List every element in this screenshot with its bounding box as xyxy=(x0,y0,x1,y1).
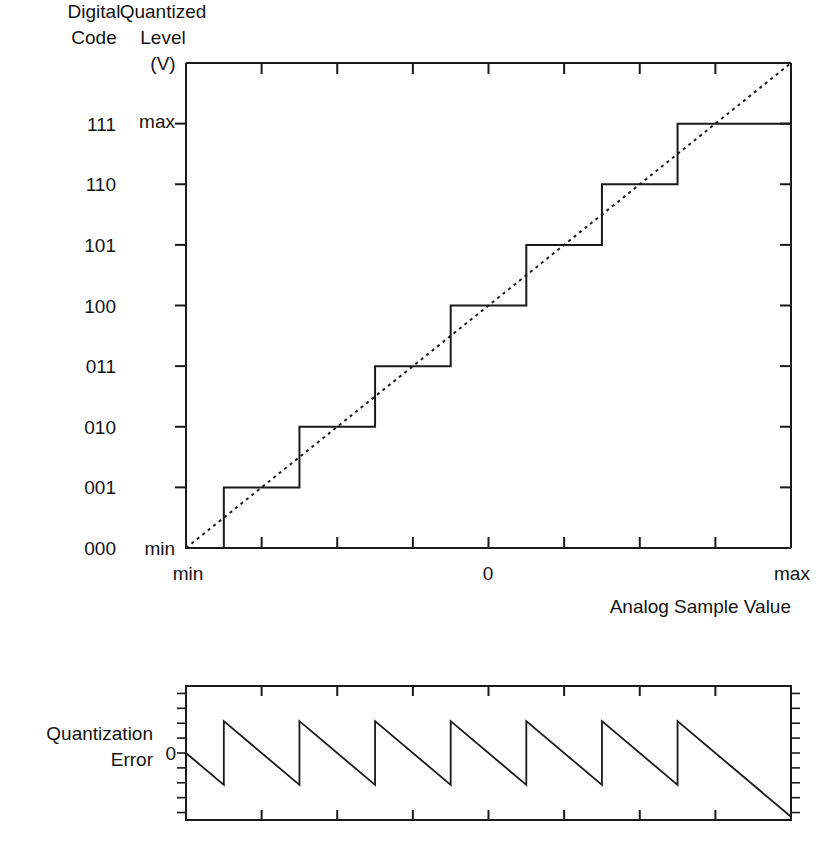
digital-code-label: 001 xyxy=(84,477,116,498)
x-axis-title: Analog Sample Value xyxy=(610,596,791,617)
y-axis-min-label: min xyxy=(144,538,175,559)
digital-code-label: 000 xyxy=(84,538,116,559)
digital-code-label: 100 xyxy=(84,296,116,317)
x-axis-max-label: max xyxy=(774,563,810,584)
y-axis-max-label: max xyxy=(139,111,175,132)
error-label-line1: Quantization xyxy=(46,723,153,744)
sawtooth-error-line xyxy=(186,721,791,817)
digital-code-label: 101 xyxy=(84,235,116,256)
x-axis-zero-label: 0 xyxy=(483,563,494,584)
error-zero-label: 0 xyxy=(165,743,176,764)
digital-code-header-line1: Digital xyxy=(68,1,121,22)
ideal-transfer-line xyxy=(186,63,791,548)
quantized-level-header-line2: Level xyxy=(140,27,185,48)
quantization-error-plot xyxy=(177,686,800,820)
quantized-level-header-line1: Quantized xyxy=(120,1,207,22)
digital-code-label: 111 xyxy=(87,114,116,135)
digital-code-header-line2: Code xyxy=(71,27,116,48)
staircase-line xyxy=(186,124,791,548)
quantized-level-header-units: (V) xyxy=(150,53,175,74)
quantization-figure: Digital Code Quantized Level (V) 1111101… xyxy=(0,0,822,847)
x-axis-min-label: min xyxy=(173,563,204,584)
transfer-function-plot xyxy=(175,63,791,548)
error-label-line2: Error xyxy=(111,749,154,770)
digital-code-label: 010 xyxy=(84,417,116,438)
digital-code-label: 011 xyxy=(86,356,116,377)
digital-code-label: 110 xyxy=(86,174,116,195)
digital-code-labels: 111110101100011010001000 xyxy=(84,114,116,559)
